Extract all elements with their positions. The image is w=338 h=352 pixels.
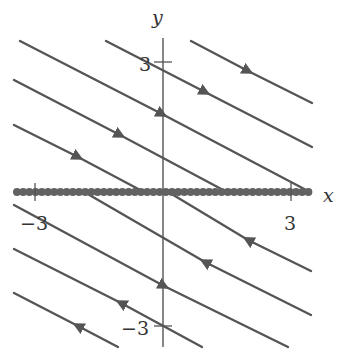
trajectory-J xyxy=(14,293,118,347)
y-tick-label-neg3: −3 xyxy=(121,317,149,339)
trajectory-I xyxy=(14,249,202,347)
trajectory-E xyxy=(14,125,142,191)
x-axis-label: x xyxy=(323,184,334,206)
y-axis-label: y xyxy=(151,6,163,28)
x-tick-label-neg3: −3 xyxy=(20,212,48,234)
trajectory-B xyxy=(106,41,312,147)
y-tick-label-3: 3 xyxy=(139,53,151,75)
trajectory-C xyxy=(20,41,308,191)
equilibrium-point xyxy=(304,188,312,196)
trajectory-H xyxy=(14,205,288,347)
trajectory-D xyxy=(14,80,225,191)
x-tick-label-3: 3 xyxy=(284,212,296,234)
phase-portrait: y x 3 −3 −3 3 xyxy=(0,0,338,352)
